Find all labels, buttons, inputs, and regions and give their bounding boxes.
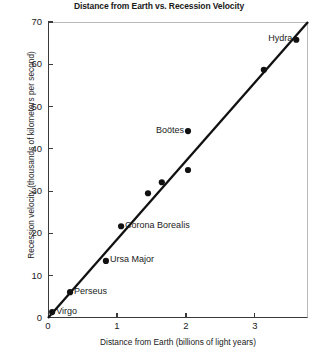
data-point[interactable] bbox=[103, 258, 109, 264]
y-tick-label: 50 bbox=[18, 101, 42, 112]
y-tick-label: 60 bbox=[18, 58, 42, 69]
y-tick-mark bbox=[48, 21, 53, 22]
point-label: Virgo bbox=[56, 306, 77, 316]
x-tick-label: 1 bbox=[107, 320, 127, 331]
data-point[interactable] bbox=[293, 37, 299, 43]
y-tick-label: 10 bbox=[18, 270, 42, 281]
y-tick-label: 30 bbox=[18, 185, 42, 196]
point-label: Ursa Major bbox=[110, 254, 154, 264]
x-tick-label: 2 bbox=[176, 320, 196, 331]
data-point[interactable] bbox=[185, 128, 191, 134]
data-point[interactable] bbox=[145, 190, 151, 196]
x-tick-mark bbox=[185, 313, 186, 318]
y-tick-mark bbox=[48, 148, 53, 149]
x-tick-label: 0 bbox=[38, 320, 58, 331]
y-tick-mark bbox=[48, 275, 53, 276]
point-label: Corona Borealis bbox=[125, 220, 190, 230]
data-point[interactable] bbox=[261, 67, 267, 73]
x-tick-label: 3 bbox=[245, 320, 265, 331]
y-tick-label: 20 bbox=[18, 227, 42, 238]
data-point[interactable] bbox=[118, 223, 124, 229]
y-tick-mark bbox=[48, 106, 53, 107]
y-tick-mark bbox=[48, 191, 53, 192]
data-point[interactable] bbox=[185, 167, 191, 173]
point-label: Perseus bbox=[74, 286, 107, 296]
trend-line bbox=[48, 22, 308, 318]
y-tick-label: 40 bbox=[18, 143, 42, 154]
plot-graphics bbox=[0, 0, 318, 354]
y-tick-label: 70 bbox=[18, 16, 42, 27]
y-tick-mark bbox=[48, 233, 53, 234]
data-point[interactable] bbox=[67, 289, 73, 295]
data-point[interactable] bbox=[159, 179, 165, 185]
chart-container: Distance from Earth vs. Recession Veloci… bbox=[0, 0, 318, 354]
point-label: Hydra bbox=[268, 33, 292, 43]
x-tick-mark bbox=[116, 313, 117, 318]
x-tick-mark bbox=[254, 313, 255, 318]
y-tick-mark bbox=[48, 64, 53, 65]
point-label: Boötes bbox=[156, 125, 184, 135]
data-point[interactable] bbox=[49, 309, 55, 315]
